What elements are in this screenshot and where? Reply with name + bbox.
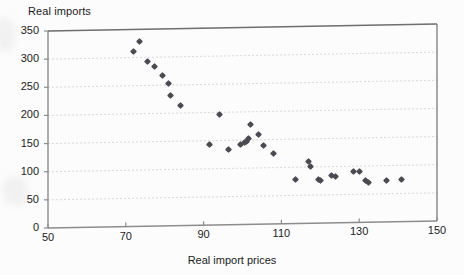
y-tick-label: 250 — [9, 80, 39, 92]
y-tick-label: 50 — [9, 193, 39, 205]
plot-area: 050100150200250300350507090110130150 — [0, 0, 464, 275]
axis-frame — [48, 24, 437, 228]
chart-figure: Real imports Real import prices 05010015… — [0, 0, 464, 275]
y-tick-label: 300 — [9, 52, 39, 64]
y-tick-label: 150 — [9, 137, 39, 149]
x-tick-label: 90 — [186, 228, 222, 240]
y-tick-label: 200 — [9, 108, 39, 120]
y-tick-label: 100 — [9, 165, 39, 177]
x-tick-label: 150 — [419, 224, 455, 236]
x-tick-label: 50 — [30, 231, 66, 243]
x-tick-label: 70 — [108, 230, 144, 242]
chart-canvas — [0, 0, 464, 275]
y-tick-label: 350 — [9, 24, 39, 36]
x-tick-label: 110 — [263, 227, 299, 239]
tick-marks — [44, 31, 437, 228]
gridlines — [48, 24, 437, 200]
x-tick-label: 130 — [341, 225, 377, 237]
